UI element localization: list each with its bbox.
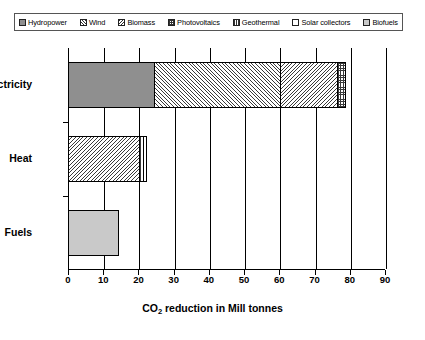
bar-fuels (68, 210, 119, 256)
x-tick-label: 80 (344, 274, 355, 285)
x-tick-label: 0 (65, 274, 70, 285)
category-label-fuels: Fuels (5, 226, 32, 238)
legend-swatch-wind (80, 19, 87, 26)
legend-swatch-photovoltaics (168, 19, 175, 26)
x-tick-label: 30 (168, 274, 179, 285)
gridline (386, 48, 387, 269)
x-axis-title-suffix: reduction in Mill tonnes (162, 302, 283, 314)
bar-heat (68, 136, 147, 182)
bar-segment-photovoltaics (337, 63, 346, 107)
legend-swatch-geothermal (233, 19, 240, 26)
legend-item-geothermal: Geothermal (233, 18, 280, 27)
legend-swatch-biomass (118, 19, 125, 26)
x-axis-title: CO2 reduction in Mill tonnes (0, 302, 425, 314)
legend-item-photovoltaics: Photovoltaics (168, 18, 220, 27)
legend-swatch-hydropower (19, 19, 26, 26)
x-axis-title-prefix: CO (142, 302, 158, 314)
gridline (351, 48, 352, 269)
category-label-electricity: Electricity (0, 78, 32, 90)
legend-label-wind: Wind (89, 18, 105, 27)
chart-legend: Hydropower Wind Biomass Photovoltaics Ge… (14, 13, 403, 31)
legend-item-hydropower: Hydropower (19, 18, 67, 27)
x-axis-title-subscript: 2 (158, 307, 162, 316)
legend-item-biofuels: Biofuels (363, 18, 398, 27)
bar-segment-biomass (280, 63, 336, 107)
legend-item-wind: Wind (80, 18, 105, 27)
legend-label-hydropower: Hydropower (28, 18, 67, 27)
legend-label-biofuels: Biofuels (372, 18, 398, 27)
chart-root: Hydropower Wind Biomass Photovoltaics Ge… (0, 0, 425, 340)
x-tick-label: 70 (309, 274, 320, 285)
legend-label-geothermal: Geothermal (242, 18, 280, 27)
y-tick-mark (63, 196, 68, 197)
x-tick-label: 10 (98, 274, 109, 285)
legend-label-solar-collectors: Solar collectors (301, 18, 350, 27)
x-tick-label: 20 (133, 274, 144, 285)
legend-swatch-solar-collectors (292, 19, 299, 26)
x-tick-label: 50 (239, 274, 250, 285)
bar-segment-solarcollectors (143, 137, 147, 181)
x-tick-label: 60 (274, 274, 285, 285)
legend-swatch-biofuels (363, 19, 370, 26)
legend-item-solar-collectors: Solar collectors (292, 18, 350, 27)
y-tick-mark (63, 122, 68, 123)
legend-item-biomass: Biomass (118, 18, 155, 27)
bar-electricity (68, 62, 346, 108)
bar-segment-hydropower (69, 63, 154, 107)
legend-label-biomass: Biomass (127, 18, 155, 27)
bar-segment-wind (154, 63, 281, 107)
x-tick-label: 90 (380, 274, 391, 285)
legend-label-photovoltaics: Photovoltaics (177, 18, 220, 27)
bar-segment-biomass (69, 137, 139, 181)
x-tick-label: 40 (204, 274, 215, 285)
category-label-heat: Heat (9, 152, 32, 164)
bar-segment-biofuels (69, 211, 118, 255)
